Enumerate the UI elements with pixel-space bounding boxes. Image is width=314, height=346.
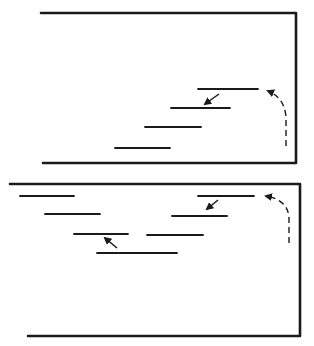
panel-frame <box>41 13 296 163</box>
arrow-icon <box>207 200 218 209</box>
arrow-icon <box>205 94 219 104</box>
panel-frame <box>10 184 300 336</box>
dashed-return-arrow-icon <box>266 196 289 243</box>
dashed-return-arrow-icon <box>268 91 286 146</box>
bottom-panel <box>10 184 300 336</box>
diagram-canvas <box>0 0 314 346</box>
diagram-svg <box>0 0 314 346</box>
arrow-icon <box>105 238 117 248</box>
top-panel <box>41 13 296 163</box>
